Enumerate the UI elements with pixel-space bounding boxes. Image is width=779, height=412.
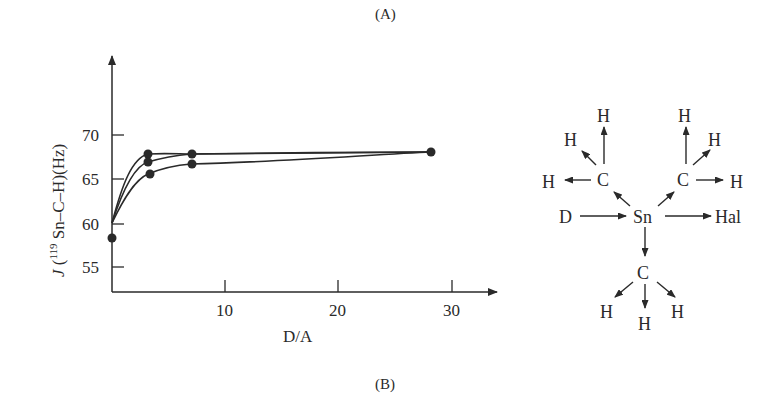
x-tick-label-30: 30 [443,301,460,320]
y-tick-label-65: 65 [82,170,99,189]
curve-3 [112,152,431,223]
x-tick-label-20: 20 [329,301,346,320]
x-tick-label-10: 10 [216,301,233,320]
atom-h: H [730,172,743,192]
atom-d: D [559,207,572,227]
arrow-c-to-h [657,282,675,297]
curve-2 [112,152,431,223]
curves [112,152,431,223]
y-tick-label-70: 70 [82,126,99,145]
atom-sn: Sn [633,207,652,227]
arrow-c-to-h [582,151,596,165]
atom-h: H [708,130,721,150]
data-point [188,150,197,159]
atom-h: H [597,106,610,126]
arrow-sn-to-c-left [614,192,630,206]
arrow-sn-to-c-right [658,192,674,206]
molecule-diagram: Sn D Hal C C C H H H H H H H H H [542,106,743,334]
arrow-c-to-h [693,150,710,165]
chart: 70 65 60 55 10 20 30 D/A J (119 Sn–C–H)(… [47,56,497,346]
data-point [108,234,117,243]
atom-c-left: C [597,170,609,190]
data-point [144,150,153,159]
figure-canvas: 70 65 60 55 10 20 30 D/A J (119 Sn–C–H)(… [0,0,779,412]
data-point [188,160,197,169]
arrow-c-to-h [615,282,633,297]
x-axis-title: D/A [283,327,313,346]
atom-h: H [542,172,555,192]
y-tick-label-55: 55 [82,258,99,277]
data-point [144,158,153,167]
atom-h: H [600,302,613,322]
data-point [427,148,436,157]
data-points [108,148,436,243]
atom-hal: Hal [715,207,741,227]
y-tick-label-60: 60 [82,215,99,234]
atom-c-bottom: C [637,263,649,283]
atom-h: H [671,302,684,322]
atom-c-right: C [677,170,689,190]
atom-h: H [638,314,651,334]
curve-1 [112,152,431,223]
atom-h: H [678,106,691,126]
data-point [146,170,155,179]
y-axis-title-superscript: 119 [47,243,59,260]
atom-h: H [564,130,577,150]
x-ticks [225,280,452,292]
y-axis-title: J (119 Sn–C–H)(Hz) [47,144,68,277]
